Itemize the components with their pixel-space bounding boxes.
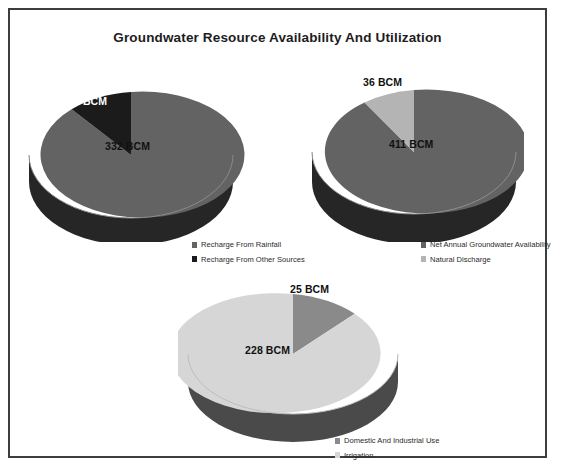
legend-swatch-icon — [421, 256, 426, 262]
pie-2-major-value-label: 411 BCM — [389, 138, 433, 150]
legend-item-domestic-and-industrial-use[interactable]: Domestic And Industrial Use — [335, 437, 439, 445]
pie-2-graphic — [304, 62, 524, 242]
pie-1-minor-value-label: 79 BCM — [68, 95, 107, 107]
pie-2-minor-value-label: 36 BCM — [363, 76, 402, 88]
legend-item-net-annual-groundwater-availability[interactable]: Net Annual Groundwater Availability — [421, 241, 551, 249]
pie-1-legend: Recharge From Rainfall Recharge From Oth… — [192, 241, 305, 270]
pie-1-graphic — [16, 62, 246, 242]
legend-swatch-icon — [192, 256, 197, 262]
chart-frame: Groundwater Resource Availability And Ut… — [8, 8, 547, 458]
pie-3-minor-value-label: 25 BCM — [290, 283, 329, 295]
legend-swatch-icon — [421, 242, 426, 248]
pie-1-svg — [16, 62, 246, 242]
legend-swatch-icon — [335, 452, 340, 458]
pie-chart-utilization: 25 BCM 228 BCM — [178, 282, 408, 442]
pie-1-slice-rainfall — [40, 92, 244, 218]
pie-3-svg — [178, 282, 408, 442]
legend-label: Recharge From Other Sources — [201, 256, 305, 264]
legend-label: Recharge From Rainfall — [201, 241, 281, 249]
legend-swatch-icon — [335, 438, 340, 444]
pie-2-legend: Net Annual Groundwater Availability Natu… — [421, 241, 551, 270]
pie-2-svg — [304, 62, 524, 242]
pie-chart-recharge: 79 BCM 332 BCM — [16, 62, 246, 242]
legend-label: Net Annual Groundwater Availability — [430, 241, 551, 249]
pie-chart-availability: 36 BCM 411 BCM — [304, 62, 524, 242]
legend-item-irrigation[interactable]: Irrigation — [335, 452, 439, 460]
pie-3-legend: Domestic And Industrial Use Irrigation — [335, 437, 439, 466]
legend-item-recharge-other-sources[interactable]: Recharge From Other Sources — [192, 256, 305, 264]
legend-swatch-icon — [192, 242, 197, 248]
legend-label: Natural Discharge — [430, 256, 491, 264]
legend-label: Irrigation — [344, 452, 374, 460]
page-title: Groundwater Resource Availability And Ut… — [10, 30, 545, 45]
pie-3-major-value-label: 228 BCM — [245, 344, 290, 356]
legend-item-recharge-rainfall[interactable]: Recharge From Rainfall — [192, 241, 305, 249]
pie-3-graphic — [178, 282, 408, 442]
legend-item-natural-discharge[interactable]: Natural Discharge — [421, 256, 551, 264]
legend-label: Domestic And Industrial Use — [344, 437, 439, 445]
pie-2-slice-net-availability — [325, 90, 524, 214]
pie-1-major-value-label: 332 BCM — [105, 140, 150, 152]
